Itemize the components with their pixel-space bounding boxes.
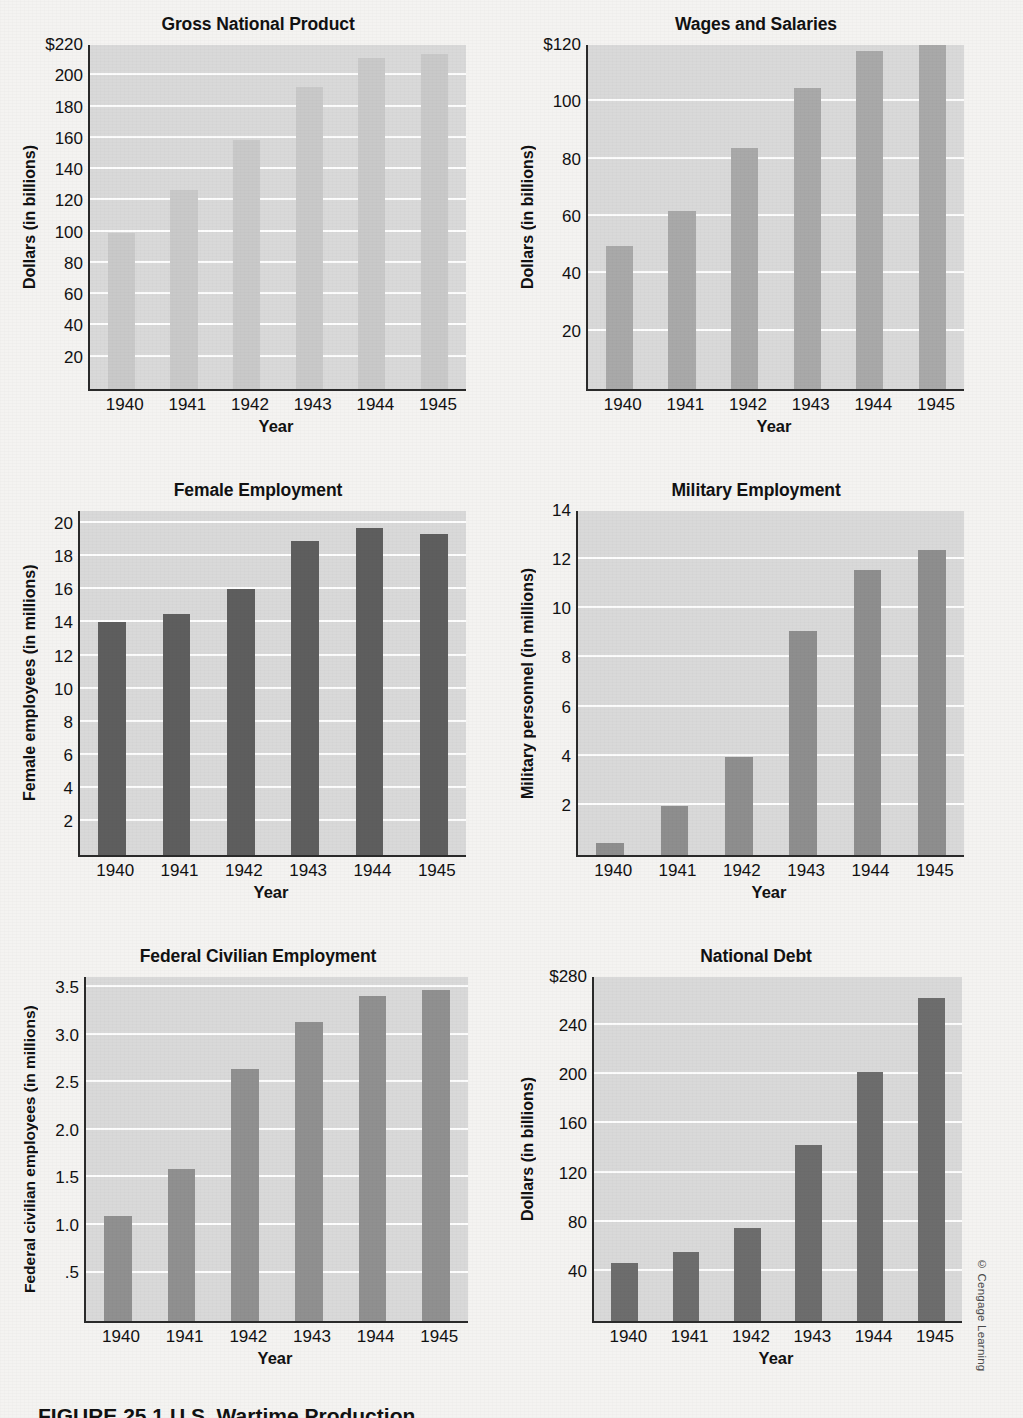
x-tick-label: 1944 xyxy=(852,861,880,881)
bar-series xyxy=(86,977,468,1321)
x-axis-ticks: 194019411942194319441945 xyxy=(88,391,464,415)
y-tick-label: 160 xyxy=(55,129,83,149)
x-tick-label: 1942 xyxy=(225,861,253,881)
chart-panel-gross-national-product: Gross National Product Dollars (in billi… xyxy=(18,14,498,466)
y-tick-label: 200 xyxy=(559,1065,587,1085)
bar xyxy=(725,757,753,855)
y-tick-label: 100 xyxy=(55,223,83,243)
figure-chart-grid: Gross National Product Dollars (in billi… xyxy=(0,0,1023,1418)
y-tick-label: 3.0 xyxy=(55,1026,79,1046)
y-tick-label: 140 xyxy=(55,160,83,180)
y-tick-label: 100 xyxy=(553,92,581,112)
bar xyxy=(668,211,695,389)
y-axis-ticks: 3.53.02.52.01.51.0.5 xyxy=(42,977,84,1321)
bar-series xyxy=(588,45,964,389)
y-tick-label: 80 xyxy=(568,1213,587,1233)
bar xyxy=(422,990,450,1321)
x-tick-label: 1942 xyxy=(729,395,756,415)
bar xyxy=(227,589,255,855)
x-axis-ticks: 194019411942194319441945 xyxy=(576,857,962,881)
x-tick-label: 1945 xyxy=(419,395,446,415)
bar-series xyxy=(594,977,962,1321)
x-tick-label: 1941 xyxy=(168,395,195,415)
chart-title: Federal Civilian Employment xyxy=(18,946,498,967)
y-tick-label: $280 xyxy=(549,967,587,987)
bar xyxy=(596,843,624,855)
x-axis-label: Year xyxy=(592,1347,960,1368)
x-tick-label: 1940 xyxy=(102,1327,130,1347)
y-tick-label: 80 xyxy=(64,254,83,274)
y-tick-label: 18 xyxy=(54,547,73,567)
x-axis-label: Year xyxy=(84,1347,466,1368)
y-tick-label: 2 xyxy=(562,796,571,816)
bar xyxy=(358,58,385,389)
x-tick-label: 1943 xyxy=(793,1327,819,1347)
bar xyxy=(734,1228,760,1321)
y-tick-label: 10 xyxy=(552,599,571,619)
chart-panel-federal-civilian-employment: Federal Civilian Employment Federal civi… xyxy=(18,946,498,1398)
y-axis-label: Dollars (in billions) xyxy=(516,45,540,389)
bar xyxy=(606,246,633,389)
plot-area xyxy=(88,45,466,391)
bar xyxy=(98,622,126,855)
y-axis-ticks: 2018161412108642 xyxy=(42,511,78,855)
bar xyxy=(291,541,319,855)
y-tick-label: 60 xyxy=(562,207,581,227)
x-tick-label: 1943 xyxy=(792,395,819,415)
x-tick-label: 1943 xyxy=(294,395,321,415)
y-tick-label: 2.0 xyxy=(55,1121,79,1141)
x-axis-label: Year xyxy=(88,415,464,436)
y-tick-label: 180 xyxy=(55,98,83,118)
x-tick-label: 1940 xyxy=(604,395,631,415)
bar-series xyxy=(80,511,466,855)
y-tick-label: 40 xyxy=(562,264,581,284)
y-axis-label: Federal civilian employees (in millions) xyxy=(18,977,42,1321)
y-axis-label: Female employees (in millions) xyxy=(18,511,42,855)
y-tick-label: 4 xyxy=(562,747,571,767)
figure-caption: FIGURE 25.1 U.S. Wartime Production xyxy=(38,1404,658,1418)
y-tick-label: 8 xyxy=(64,713,73,733)
x-tick-label: 1945 xyxy=(420,1327,448,1347)
y-tick-label: 4 xyxy=(64,779,73,799)
x-tick-label: 1945 xyxy=(917,395,944,415)
bar xyxy=(795,1145,821,1321)
bar xyxy=(918,550,946,855)
y-axis-ticks: $12010080604020 xyxy=(540,45,586,389)
y-tick-label: 16 xyxy=(54,580,73,600)
bar xyxy=(356,528,384,855)
bar xyxy=(295,1022,323,1321)
x-tick-label: 1941 xyxy=(666,395,693,415)
y-tick-label: 80 xyxy=(562,150,581,170)
bar xyxy=(919,45,946,389)
plot-area xyxy=(576,511,964,857)
x-tick-label: 1944 xyxy=(854,395,881,415)
bar xyxy=(420,534,448,855)
y-tick-label: .5 xyxy=(65,1263,79,1283)
y-tick-label: 200 xyxy=(55,66,83,86)
chart-title: Gross National Product xyxy=(18,14,498,35)
chart-title: National Debt xyxy=(516,946,996,967)
y-tick-label: $120 xyxy=(543,35,581,55)
bar-series xyxy=(578,511,964,855)
y-tick-label: 40 xyxy=(64,316,83,336)
bar xyxy=(296,87,323,389)
chart-panel-national-debt: National Debt Dollars (in billions) $280… xyxy=(516,946,996,1398)
bar xyxy=(661,806,689,855)
y-tick-label: 12 xyxy=(54,647,73,667)
x-tick-label: 1943 xyxy=(293,1327,321,1347)
bar xyxy=(170,190,197,389)
y-axis-label: Dollars (in billions) xyxy=(18,45,42,389)
x-axis-label: Year xyxy=(78,881,464,902)
bar xyxy=(673,1252,699,1321)
chart-panel-military-employment: Military Employment Military personnel (… xyxy=(516,480,996,932)
y-tick-label: 10 xyxy=(54,680,73,700)
chart-title: Military Employment xyxy=(516,480,996,501)
x-tick-label: 1942 xyxy=(231,395,258,415)
y-tick-label: 6 xyxy=(562,698,571,718)
copyright-credit: © Cengage Learning xyxy=(976,1258,988,1371)
y-tick-label: 3.5 xyxy=(55,978,79,998)
x-tick-label: 1944 xyxy=(855,1327,881,1347)
bar xyxy=(731,148,758,389)
x-tick-label: 1941 xyxy=(161,861,189,881)
y-axis-label: Military personnel (in millions) xyxy=(516,511,540,855)
